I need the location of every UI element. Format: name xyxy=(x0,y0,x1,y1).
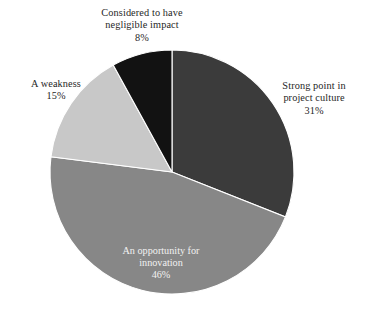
slice-value-opportunity-innovation: 46% xyxy=(98,269,224,281)
slice-label-negligible-impact: Considered to have negligible impact 8% xyxy=(76,7,208,44)
slice-label-a-weakness-line1: A weakness xyxy=(31,78,81,89)
slice-label-opportunity-innovation-line1: An opportunity for xyxy=(123,245,200,256)
slice-label-a-weakness: A weakness 15% xyxy=(8,78,104,103)
slice-label-strong-point: Strong point in project culture 31% xyxy=(264,80,364,117)
slice-value-strong-point: 31% xyxy=(264,105,364,117)
slice-label-strong-point-line1: Strong point in xyxy=(282,80,345,91)
slice-label-negligible-impact-line1: Considered to have xyxy=(101,7,182,18)
pie-chart-figure: Considered to have negligible impact 8% … xyxy=(0,0,366,319)
slice-label-opportunity-innovation-line2: innovation xyxy=(139,257,183,268)
cropped-caption-artifact xyxy=(14,310,244,319)
slice-value-a-weakness: 15% xyxy=(8,90,104,102)
slice-value-negligible-impact: 8% xyxy=(76,32,208,44)
slice-label-strong-point-line2: project culture xyxy=(283,92,344,103)
slice-label-opportunity-innovation: An opportunity for innovation 46% xyxy=(98,245,224,282)
slice-label-negligible-impact-line2: negligible impact xyxy=(105,19,178,30)
